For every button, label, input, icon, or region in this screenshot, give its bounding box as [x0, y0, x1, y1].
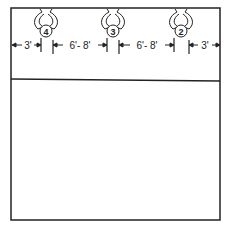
- dimension-label: 6'- 8': [136, 40, 157, 51]
- player-4-icon: 4: [35, 9, 58, 37]
- position-ticks: [41, 38, 189, 54]
- player-number: 3: [110, 27, 115, 37]
- player-number: 2: [178, 27, 183, 37]
- court-outline: [11, 8, 220, 220]
- court-diagram: 4 3 2 3' 6'-: [0, 0, 231, 229]
- dimension-label: 6'- 8': [69, 40, 90, 51]
- dimension-label: 3': [201, 40, 209, 51]
- player-3-icon: 3: [102, 9, 125, 37]
- player-2-icon: 2: [170, 9, 193, 37]
- center-line: [11, 79, 220, 81]
- player-number: 4: [43, 27, 48, 37]
- dimension-label: 3': [24, 40, 32, 51]
